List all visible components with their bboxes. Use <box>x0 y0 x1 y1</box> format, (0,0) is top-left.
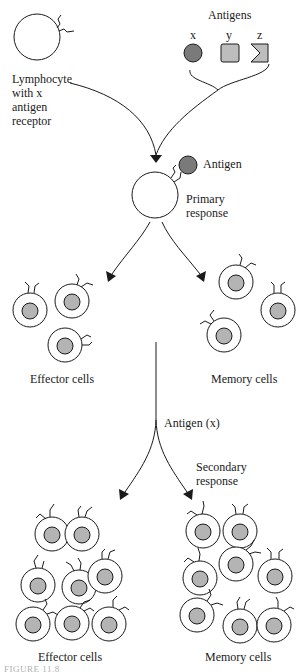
arrowhead-effector2 <box>119 489 129 500</box>
bound-antigen-icon <box>179 156 197 174</box>
arrowhead-memory2 <box>183 489 193 500</box>
antigen-x-icon <box>184 44 202 62</box>
arrow-to-memory2 <box>156 420 187 492</box>
arrowhead-effector1 <box>106 271 116 282</box>
lymphocyte-label: Lymphocyte with x antigen receptor <box>12 72 72 128</box>
memory-cells-group-1 <box>200 254 295 352</box>
arrowhead-memory1 <box>196 271 206 282</box>
antigen-z-label: z <box>257 28 262 42</box>
naive-lymphocyte <box>14 14 74 60</box>
antigen-challenge-label: Antigen (x) <box>164 416 220 430</box>
primary-response-label: Primary response <box>186 192 246 220</box>
effector-cells-group-1 <box>13 274 93 362</box>
antigen-y-label: y <box>226 28 232 42</box>
effector-cells-label-2: Effector cells <box>38 650 102 664</box>
memory-cells-label-1: Memory cells <box>211 372 277 386</box>
arrow-primary-to-memory <box>162 222 200 274</box>
bound-antigen-label: Antigen <box>203 157 242 171</box>
arrow-to-effector2 <box>125 420 156 492</box>
antigen-y-icon <box>221 44 239 62</box>
arrow-lymphocyte-to-primary <box>70 83 156 155</box>
effector-cells-label-1: Effector cells <box>30 372 94 386</box>
effector-cells-group-2 <box>16 504 129 641</box>
antigens-title: Antigens <box>208 8 251 22</box>
arrowhead-primary <box>150 155 162 163</box>
arrow-primary-to-effector <box>112 222 150 274</box>
antigen-z-icon <box>251 44 268 62</box>
antigen-x-label: x <box>190 28 196 42</box>
figure-caption: FIGURE 11.8 <box>4 664 60 672</box>
antigen-brace <box>190 64 269 90</box>
secondary-response-label: Secondary response <box>196 460 266 488</box>
memory-cells-label-2: Memory cells <box>205 650 271 664</box>
arrow-antigen-to-primary <box>156 90 218 155</box>
memory-cells-group-2 <box>180 501 294 643</box>
